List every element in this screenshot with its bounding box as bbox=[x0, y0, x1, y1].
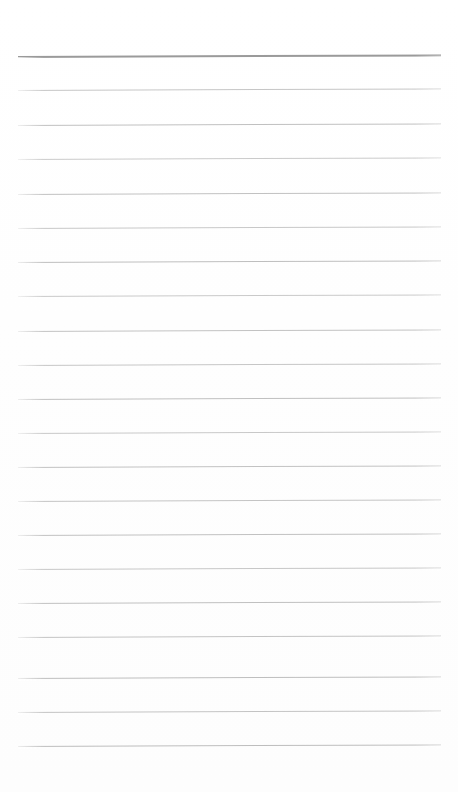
ruled-line bbox=[18, 601, 441, 604]
ruled-line bbox=[18, 226, 441, 229]
ruled-line bbox=[18, 363, 441, 366]
ruled-line bbox=[18, 499, 441, 502]
ruled-line bbox=[18, 157, 441, 160]
ruled-line bbox=[18, 431, 441, 434]
scanned-page: Scanned blank lined notebook page with 2… bbox=[0, 0, 458, 792]
ruled-line bbox=[18, 465, 441, 468]
ruled-line bbox=[18, 54, 441, 58]
ruled-line bbox=[18, 260, 441, 263]
ruled-line bbox=[18, 567, 441, 570]
ruled-line bbox=[18, 710, 441, 713]
ruled-line bbox=[18, 744, 441, 747]
ruled-line bbox=[18, 294, 441, 297]
ruled-line bbox=[18, 192, 441, 195]
ruled-line bbox=[18, 533, 441, 536]
ruled-line bbox=[18, 635, 441, 638]
ruled-line-area bbox=[0, 0, 458, 792]
ruled-line bbox=[18, 123, 441, 126]
ruled-line bbox=[18, 329, 441, 332]
ruled-line bbox=[18, 676, 441, 679]
ruled-line bbox=[18, 88, 441, 91]
ruled-line bbox=[18, 397, 441, 400]
